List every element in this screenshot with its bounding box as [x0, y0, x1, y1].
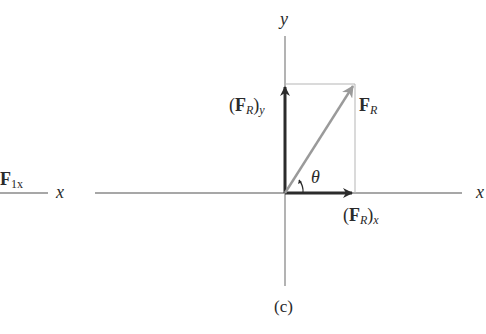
resultant-label: FR: [359, 96, 377, 116]
theta-label: θ: [311, 168, 320, 186]
y-component-label: (FR)y: [229, 96, 265, 116]
y-axis-label: y: [280, 10, 288, 28]
diagram-canvas: [0, 0, 486, 334]
x-axis-label: x: [476, 183, 484, 201]
x-component-label: (FR)x: [343, 206, 379, 226]
left-force-label: F1x: [0, 170, 23, 190]
left-x-axis-label: x: [56, 183, 64, 201]
resultant-force-diagram: F1x x y x (FR)y FR θ (FR)x (c): [0, 0, 486, 334]
figure-caption: (c): [274, 298, 293, 315]
